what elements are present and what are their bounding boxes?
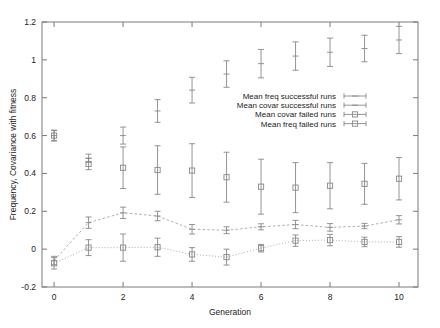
y-tick-label: 1.2 — [24, 17, 36, 27]
data-series-group — [51, 26, 402, 269]
x-tick-label: 0 — [52, 292, 57, 302]
y-axis-title: Frequency, Covariance with fitness — [8, 89, 18, 221]
axis-tick-labels-group: -0.200.20.40.60.811.20246810 — [21, 17, 404, 302]
y-tick-label: 0.6 — [24, 131, 36, 141]
y-tick-label: 0.8 — [24, 93, 36, 103]
legend-label-3: Mean freq failed runs — [261, 120, 336, 129]
legend-group: Mean freq successful runsMean covar succ… — [237, 92, 366, 129]
x-tick-label: 10 — [394, 292, 404, 302]
series-0 — [51, 26, 402, 162]
series-2 — [51, 234, 402, 269]
axis-titles-group: GenerationFrequency, Covariance with fit… — [8, 89, 251, 317]
x-axis-title: Generation — [209, 307, 251, 317]
series-3 — [51, 130, 402, 214]
y-tick-label: 1 — [31, 55, 36, 65]
legend-label-2: Mean covar failed runs — [255, 110, 336, 119]
y-tick-label: 0.2 — [24, 206, 36, 216]
y-tick-label: 0 — [31, 244, 36, 254]
y-tick-label: -0.2 — [21, 282, 36, 292]
x-tick-label: 2 — [121, 292, 126, 302]
x-tick-label: 6 — [259, 292, 264, 302]
chart-figure: -0.200.20.40.60.811.20246810 Mean freq s… — [0, 0, 440, 328]
scatter-errorbar-plot: -0.200.20.40.60.811.20246810 Mean freq s… — [0, 0, 440, 328]
legend-label-0: Mean freq successful runs — [243, 92, 336, 101]
x-tick-label: 4 — [190, 292, 195, 302]
legend-label-1: Mean covar successful runs — [237, 101, 336, 110]
x-tick-label: 8 — [328, 292, 333, 302]
y-tick-label: 0.4 — [24, 168, 36, 178]
